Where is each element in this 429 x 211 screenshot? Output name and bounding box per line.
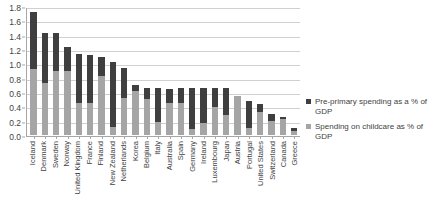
bar-slot[interactable]	[51, 8, 62, 135]
bar-stack[interactable]	[189, 8, 195, 135]
bar-segment-pre-primary[interactable]	[53, 33, 59, 71]
bar-stack[interactable]	[166, 8, 172, 135]
bar-stack[interactable]	[223, 8, 229, 135]
bar-segment-pre-primary[interactable]	[200, 88, 206, 122]
bar-segment-childcare[interactable]	[200, 123, 206, 135]
legend-entry[interactable]: Spending on childcare as % of GDP	[306, 122, 428, 142]
bar-slot[interactable]	[175, 8, 186, 135]
bar-segment-childcare[interactable]	[87, 103, 93, 135]
bar-slot[interactable]	[243, 8, 254, 135]
bar-stack[interactable]	[53, 8, 59, 135]
bar-slot[interactable]	[28, 8, 39, 135]
bar-segment-childcare[interactable]	[155, 122, 161, 135]
bar-segment-childcare[interactable]	[110, 127, 116, 135]
x-axis-category-slot: Canada	[278, 140, 289, 208]
bar-segment-childcare[interactable]	[166, 103, 172, 135]
bar-slot[interactable]	[255, 8, 266, 135]
bar-segment-childcare[interactable]	[76, 103, 82, 135]
bar-stack[interactable]	[132, 8, 138, 135]
bar-slot[interactable]	[187, 8, 198, 135]
bar-slot[interactable]	[266, 8, 277, 135]
bar-stack[interactable]	[30, 8, 36, 135]
bar-slot[interactable]	[130, 8, 141, 135]
bar-segment-childcare[interactable]	[53, 71, 59, 135]
bar-segment-pre-primary[interactable]	[178, 88, 184, 102]
bar-segment-pre-primary[interactable]	[30, 12, 36, 69]
bar-segment-pre-primary[interactable]	[76, 54, 82, 103]
bar-segment-childcare[interactable]	[30, 69, 36, 135]
bar-segment-childcare[interactable]	[64, 71, 70, 135]
bar-slot[interactable]	[198, 8, 209, 135]
bar-segment-childcare[interactable]	[42, 83, 48, 135]
bar-slot[interactable]	[96, 8, 107, 135]
bar-segment-pre-primary[interactable]	[42, 33, 48, 82]
bar-slot[interactable]	[119, 8, 130, 135]
bar-stack[interactable]	[212, 8, 218, 135]
bar-stack[interactable]	[268, 8, 274, 135]
bar-stack[interactable]	[246, 8, 252, 135]
bar-slot[interactable]	[289, 8, 300, 135]
bar-slot[interactable]	[221, 8, 232, 135]
bar-segment-childcare[interactable]	[280, 119, 286, 135]
bar-segment-pre-primary[interactable]	[166, 89, 172, 103]
bar-segment-pre-primary[interactable]	[189, 88, 195, 128]
bar-slot[interactable]	[85, 8, 96, 135]
bar-segment-pre-primary[interactable]	[144, 88, 150, 99]
bar-segment-pre-primary[interactable]	[223, 88, 229, 115]
bar-stack[interactable]	[257, 8, 263, 135]
bar-slot[interactable]	[141, 8, 152, 135]
bar-segment-pre-primary[interactable]	[268, 114, 274, 121]
bar-segment-pre-primary[interactable]	[212, 88, 218, 107]
y-axis-tick-label: 0.2	[9, 118, 21, 127]
bar-slot[interactable]	[62, 8, 73, 135]
bar-stack[interactable]	[64, 8, 70, 135]
bar-stack[interactable]	[155, 8, 161, 135]
bar-segment-pre-primary[interactable]	[98, 57, 104, 76]
bar-segment-childcare[interactable]	[132, 91, 138, 135]
bar-stack[interactable]	[234, 8, 240, 135]
bar-slot[interactable]	[73, 8, 84, 135]
bar-stack[interactable]	[291, 8, 297, 135]
bar-segment-childcare[interactable]	[121, 98, 127, 135]
x-axis-category-slot: Australia	[164, 140, 175, 208]
bar-segment-pre-primary[interactable]	[246, 101, 252, 128]
bar-segment-childcare[interactable]	[178, 103, 184, 135]
bar-slot[interactable]	[164, 8, 175, 135]
bar-segment-pre-primary[interactable]	[121, 68, 127, 98]
bar-segment-pre-primary[interactable]	[110, 62, 116, 127]
bar-segment-childcare[interactable]	[257, 112, 263, 135]
bar-segment-childcare[interactable]	[144, 99, 150, 135]
bar-slot[interactable]	[39, 8, 50, 135]
bar-segment-pre-primary[interactable]	[64, 47, 70, 71]
bar-stack[interactable]	[280, 8, 286, 135]
bar-segment-childcare[interactable]	[189, 129, 195, 135]
bar-stack[interactable]	[76, 8, 82, 135]
bar-segment-childcare[interactable]	[223, 115, 229, 135]
bar-stack[interactable]	[87, 8, 93, 135]
bar-stack[interactable]	[42, 8, 48, 135]
legend-entry[interactable]: Pre-primary spending as a % of GDP	[306, 97, 428, 117]
bar-segment-childcare[interactable]	[212, 107, 218, 135]
bar-slot[interactable]	[209, 8, 220, 135]
bar-slot[interactable]	[153, 8, 164, 135]
bar-segment-childcare[interactable]	[234, 96, 240, 135]
bar-stack[interactable]	[144, 8, 150, 135]
bar-segment-pre-primary[interactable]	[155, 88, 161, 122]
bar-segment-childcare[interactable]	[268, 121, 274, 135]
x-axis-tick-label: Denmark	[40, 141, 48, 171]
bar-segment-pre-primary[interactable]	[87, 55, 93, 104]
x-axis-tick-label: Iceland	[29, 141, 37, 165]
bar-stack[interactable]	[200, 8, 206, 135]
bar-stack[interactable]	[178, 8, 184, 135]
bar-segment-childcare[interactable]	[98, 76, 104, 135]
bar-segment-childcare[interactable]	[291, 131, 297, 135]
bar-stack[interactable]	[110, 8, 116, 135]
bar-slot[interactable]	[232, 8, 243, 135]
x-axis-tick-mark	[181, 136, 182, 139]
bar-stack[interactable]	[121, 8, 127, 135]
bar-segment-childcare[interactable]	[246, 128, 252, 135]
bar-slot[interactable]	[107, 8, 118, 135]
bar-stack[interactable]	[98, 8, 104, 135]
bar-segment-pre-primary[interactable]	[257, 104, 263, 112]
bar-slot[interactable]	[277, 8, 288, 135]
